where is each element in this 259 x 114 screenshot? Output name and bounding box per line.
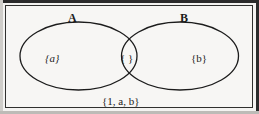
set-b-label: B xyxy=(180,12,188,24)
set-a-label: A xyxy=(68,12,77,24)
venn-diagram-figure: A B {a} { } {b} {1, a, b} xyxy=(0,0,259,114)
region-label-b-only: {b} xyxy=(191,53,207,64)
set-b-ellipse xyxy=(122,22,239,90)
universal-set-label: {1, a, b} xyxy=(102,96,139,107)
region-label-a-only: {a} xyxy=(45,53,59,64)
region-label-intersection: { } xyxy=(120,53,133,64)
